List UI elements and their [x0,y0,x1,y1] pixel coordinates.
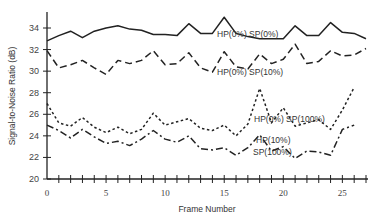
label-hp0-sp10: HP(0%) SP(10%) [217,67,283,77]
snr-line-chart: 2022242628303234 0510152025 Frame Number… [0,0,378,222]
label-hp10-sp100-line2: SP(100%) [253,147,292,157]
series-line-2 [47,87,354,136]
y-tick-label: 20 [29,174,39,184]
x-axis-title: Frame Number [178,204,235,214]
x-tick-label: 5 [104,188,109,198]
label-hp10-sp100-line1: HP(10%) [256,135,291,145]
y-tick-label: 26 [29,109,39,119]
series-lines [47,17,366,158]
y-tick-label: 30 [29,66,39,76]
x-tick-label: 10 [161,188,171,198]
y-tick-label: 34 [29,23,39,33]
label-hp0-sp100: HP(0%) SP(100%) [254,114,325,124]
series-line-1 [47,44,366,74]
x-tick-label: 0 [45,188,50,198]
x-tick-label: 15 [220,188,230,198]
y-axis-title: Signal-to-Noise Ratio (dB) [7,46,17,145]
x-tick-label: 20 [279,188,289,198]
series-line-3 [47,125,354,158]
y-tick-label: 22 [29,152,39,162]
y-tick-label: 28 [29,88,39,98]
label-hp0-sp0: HP(0%) SP(0%) [217,29,279,39]
series-line-0 [47,17,366,41]
x-tick-label: 25 [338,188,348,198]
y-tick-label: 24 [29,131,39,141]
axes: 2022242628303234 0510152025 [29,12,368,198]
y-tick-label: 32 [29,45,39,55]
